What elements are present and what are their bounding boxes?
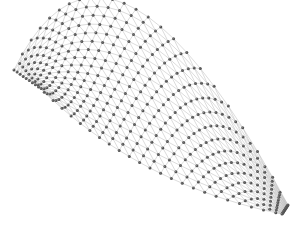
node-highlight [195, 149, 196, 150]
node-highlight [186, 176, 187, 177]
node-highlight [214, 98, 215, 99]
node-highlight [243, 163, 244, 164]
lattice-strut [150, 36, 157, 50]
lattice-strut [182, 183, 193, 188]
lattice-node [279, 191, 282, 194]
node-highlight [103, 15, 104, 16]
node-highlight [85, 32, 86, 33]
node-highlight [149, 35, 150, 36]
lattice-node [231, 183, 234, 186]
node-highlight [130, 15, 131, 16]
lattice-node [161, 146, 164, 149]
node-highlight [39, 27, 40, 28]
lattice-strut [136, 9, 148, 17]
lattice-node [256, 157, 259, 160]
node-highlight [186, 120, 187, 121]
lattice-strut [97, 6, 108, 7]
lattice-node [86, 94, 89, 97]
lattice-node [146, 59, 149, 62]
lattice-strut [74, 114, 80, 124]
lattice-node [84, 31, 87, 34]
lattice-strut [175, 112, 187, 120]
lattice-node [269, 196, 272, 199]
lattice-strut [226, 176, 233, 185]
lattice-strut [68, 105, 74, 114]
lattice-node [30, 55, 33, 58]
lattice-strut [214, 168, 226, 175]
lattice-strut [118, 37, 129, 41]
lattice-node [242, 145, 245, 148]
lattice-strut [152, 54, 164, 63]
node-highlight [28, 73, 29, 74]
lattice-node [242, 135, 245, 138]
lattice-node [197, 113, 200, 116]
node-highlight [49, 93, 50, 94]
node-highlight [223, 138, 224, 139]
node-highlight [90, 89, 91, 90]
node-highlight [180, 53, 181, 54]
lattice-node [200, 82, 203, 85]
lattice-strut [220, 165, 232, 173]
lattice-node [214, 181, 217, 184]
node-highlight [264, 177, 265, 178]
lattice-node [123, 47, 126, 50]
node-highlight [140, 91, 141, 92]
node-highlight [110, 25, 111, 26]
lattice-node [149, 167, 152, 170]
lattice-node [106, 102, 109, 105]
node-highlight [279, 194, 280, 195]
node-highlight [68, 50, 69, 51]
lattice-node [30, 39, 33, 42]
lattice-node [117, 81, 120, 84]
lattice-node [164, 122, 167, 125]
lattice-strut [145, 41, 157, 49]
lattice-node [213, 167, 216, 170]
node-highlight [135, 53, 136, 54]
lattice-strut [193, 188, 204, 192]
lattice-node [197, 181, 200, 184]
node-highlight [13, 69, 14, 70]
lattice-strut [100, 24, 107, 34]
node-highlight [243, 172, 244, 173]
node-highlight [73, 113, 74, 114]
node-highlight [122, 74, 123, 75]
lattice-strut [211, 126, 224, 139]
node-highlight [83, 119, 84, 120]
lattice-node [70, 100, 73, 103]
node-highlight [270, 196, 271, 197]
node-highlight [231, 162, 232, 163]
lattice-node [250, 197, 253, 200]
node-highlight [238, 182, 239, 183]
node-highlight [277, 204, 278, 205]
node-highlight [46, 93, 47, 94]
lattice-node [199, 144, 202, 147]
lattice-node [90, 65, 93, 68]
node-highlight [257, 191, 258, 192]
lattice-strut [65, 34, 75, 37]
lattice-node [205, 141, 208, 144]
lattice-node [256, 170, 259, 173]
lattice-node [95, 120, 98, 123]
lattice-node [249, 158, 252, 161]
lattice-strut [190, 85, 203, 98]
lattice-node [219, 177, 222, 180]
node-highlight [134, 124, 135, 125]
lattice-strut [157, 49, 169, 59]
lattice-render [0, 0, 298, 230]
lattice-strut [180, 108, 187, 121]
node-highlight [55, 100, 56, 101]
node-highlight [197, 114, 198, 115]
lattice-strut [166, 81, 178, 90]
node-highlight [106, 126, 107, 127]
lattice-strut [166, 81, 173, 94]
lattice-strut [190, 85, 197, 99]
lattice-strut [188, 69, 195, 84]
lattice-strut [148, 17, 161, 27]
lattice-node [64, 76, 67, 79]
node-highlight [52, 29, 53, 30]
node-highlight [154, 72, 155, 73]
lattice-strut [101, 0, 108, 8]
lattice-node [99, 91, 102, 94]
lattice-node [76, 91, 79, 94]
node-highlight [184, 159, 185, 160]
